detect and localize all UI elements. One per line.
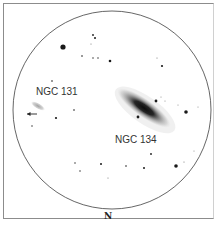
label-ngc-134: NGC 134 xyxy=(115,134,157,145)
star xyxy=(60,44,65,49)
star xyxy=(55,117,57,119)
star xyxy=(156,57,157,58)
star xyxy=(90,43,91,44)
star xyxy=(94,37,96,39)
star xyxy=(155,100,158,103)
star xyxy=(100,163,102,165)
star xyxy=(150,153,152,155)
star xyxy=(125,165,127,167)
star xyxy=(51,80,53,82)
arrow-left-icon xyxy=(27,112,37,116)
star xyxy=(165,101,166,102)
star xyxy=(178,105,179,106)
star xyxy=(137,116,140,119)
star xyxy=(107,177,108,178)
star xyxy=(73,109,75,111)
star xyxy=(74,162,75,163)
star xyxy=(97,57,98,58)
label-ngc-131: NGC 131 xyxy=(36,86,78,97)
star xyxy=(161,65,163,67)
star xyxy=(184,110,188,114)
star xyxy=(174,164,178,168)
galaxy-ngc-131 xyxy=(30,99,47,112)
star xyxy=(79,170,80,171)
star xyxy=(143,167,145,169)
stars xyxy=(31,34,198,179)
star xyxy=(31,125,32,126)
star xyxy=(92,34,94,36)
eyepiece-field xyxy=(0,0,218,226)
star xyxy=(161,97,162,98)
north-marker: N xyxy=(104,211,112,221)
star xyxy=(109,60,112,63)
star xyxy=(194,151,195,152)
star xyxy=(198,107,199,108)
star xyxy=(183,161,184,162)
star xyxy=(81,55,83,57)
galaxy-ngc-134 xyxy=(113,82,176,133)
star xyxy=(92,57,93,58)
